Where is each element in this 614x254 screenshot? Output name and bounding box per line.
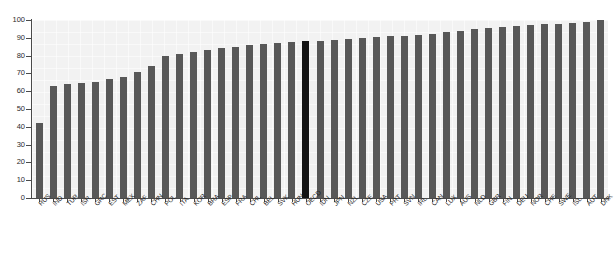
bar-irl — [415, 35, 422, 198]
y-axis-tick-label: 30 — [1, 141, 25, 149]
bar-mex — [120, 77, 127, 198]
y-axis-tick-label: 100 — [1, 16, 25, 24]
bar-isl — [569, 23, 576, 198]
bar-oecd — [302, 41, 309, 198]
bar-ind — [50, 86, 57, 198]
y-axis-tick — [26, 38, 32, 39]
y-axis-tick — [26, 56, 32, 57]
bar-deu — [513, 26, 520, 198]
y-axis-tick — [26, 109, 32, 110]
bar-lux — [443, 32, 450, 198]
bar-can — [429, 34, 436, 198]
bar-cze — [359, 38, 366, 198]
bar-swe — [555, 24, 562, 198]
y-axis-tick — [26, 198, 32, 199]
bar-fin — [499, 27, 506, 198]
bar-prt — [387, 36, 394, 198]
bar-idn — [317, 41, 324, 198]
bar-bra — [204, 50, 211, 198]
y-axis-tick — [26, 127, 32, 128]
bar-aut — [583, 22, 590, 198]
y-axis-tick-label: 20 — [1, 158, 25, 166]
bar-ita — [176, 54, 183, 198]
bar-chart: 0102030405060708090100 RUSINDTURISRGRCES… — [0, 0, 614, 254]
bar-chn — [148, 66, 155, 198]
bar-tur — [64, 84, 71, 198]
y-axis-tick — [26, 73, 32, 74]
chart-title — [0, 0, 614, 2]
bar-nld — [471, 29, 478, 198]
y-axis-tick-label: 40 — [1, 123, 25, 131]
y-axis-tick — [26, 145, 32, 146]
bar-gbr — [485, 28, 492, 198]
y-axis-tick — [26, 91, 32, 92]
y-axis-tick-label: 10 — [1, 176, 25, 184]
y-axis-tick — [26, 180, 32, 181]
bar-jpn — [331, 40, 338, 198]
y-axis-tick-label: 70 — [1, 69, 25, 77]
bar-rus — [36, 123, 43, 198]
bar-nor — [527, 25, 534, 198]
y-axis-tick — [26, 20, 32, 21]
bar-svn — [401, 36, 408, 198]
bar-hun — [288, 42, 295, 198]
y-axis-tick-label: 60 — [1, 87, 25, 95]
bar-esp — [218, 48, 225, 198]
bar-usa — [373, 37, 380, 198]
bar-kor — [190, 52, 197, 198]
y-axis-tick-label: 50 — [1, 105, 25, 113]
bar-fra — [232, 47, 239, 198]
y-axis-tick-label: 80 — [1, 52, 25, 60]
bar-grc — [92, 82, 99, 198]
bar-zaf — [134, 72, 141, 198]
bar-bel — [260, 44, 267, 198]
y-axis-tick-label: 0 — [1, 194, 25, 202]
bar-chl — [246, 45, 253, 198]
y-axis-tick — [26, 162, 32, 163]
y-axis-tick-labels: 0102030405060708090100 — [0, 0, 25, 254]
bar-est — [106, 79, 113, 198]
bar-svk — [274, 43, 281, 198]
bar-isr — [78, 83, 85, 198]
bar-nzl — [345, 39, 352, 198]
y-axis-tick-label: 90 — [1, 34, 25, 42]
bar-pol — [162, 56, 169, 198]
bar-dnk — [597, 20, 604, 198]
bar-che — [541, 24, 548, 198]
bar-aus — [457, 31, 464, 198]
